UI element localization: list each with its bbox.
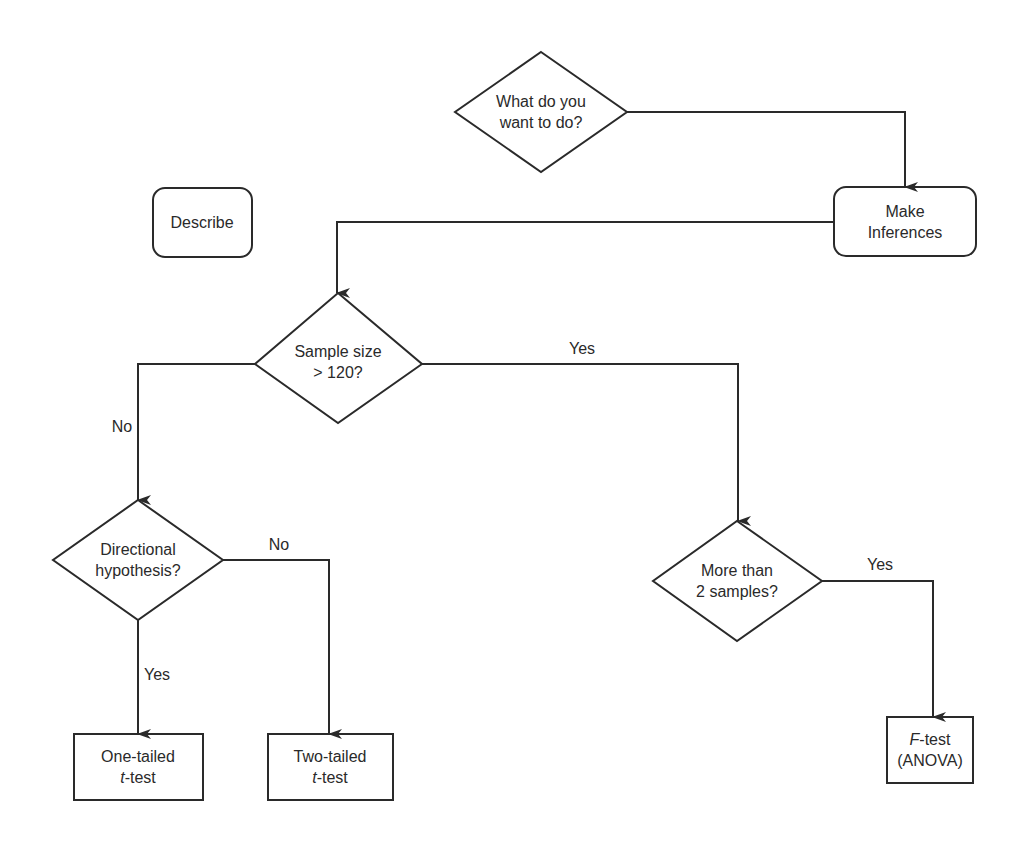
connector-directional-no (223, 560, 329, 734)
f-test-box: F-test (ANOVA) (897, 729, 962, 771)
f-test-italic-f: F (910, 731, 920, 748)
two-tailed-line1: Two-tailed (294, 746, 367, 767)
f-test-line1: F-test (897, 729, 962, 750)
decision-more-samples: More than 2 samples? (696, 560, 778, 602)
edge-label-directional-no: No (269, 536, 289, 554)
connector-sample-no (138, 364, 255, 500)
two-tailed-box: Two-tailed t-test (294, 746, 367, 788)
sample-size-line1: Sample size (294, 341, 381, 362)
edge-label-directional-yes: Yes (144, 666, 170, 684)
edge-label-more-samples-yes: Yes (867, 556, 893, 574)
make-inferences-line1: Make (868, 201, 943, 222)
decision-directional: Directional hypothesis? (95, 539, 180, 581)
two-tailed-line2: t-test (294, 767, 367, 788)
connector-start-to-inferences (627, 112, 905, 187)
make-inferences-line2: Inferences (868, 222, 943, 243)
make-inferences-box: Make Inferences (868, 201, 943, 243)
describe-label: Describe (170, 212, 233, 233)
more-samples-line2: 2 samples? (696, 581, 778, 602)
two-tailed-rest: -test (317, 769, 348, 786)
edge-label-sample-yes: Yes (569, 340, 595, 358)
sample-size-line2: > 120? (294, 362, 381, 383)
decision-start: What do you want to do? (496, 91, 586, 133)
connector-sample-yes (422, 364, 738, 521)
f-test-rest: -test (919, 731, 950, 748)
decision-start-line1: What do you (496, 91, 586, 112)
one-tailed-line2: t-test (101, 767, 175, 788)
more-samples-line1: More than (696, 560, 778, 581)
connector-more-samples-yes (822, 581, 933, 717)
connector-inferences-to-sample-size (337, 222, 834, 293)
one-tailed-box: One-tailed t-test (101, 746, 175, 788)
edge-label-sample-no: No (112, 418, 132, 436)
decision-sample-size: Sample size > 120? (294, 341, 381, 383)
f-test-line2: (ANOVA) (897, 750, 962, 771)
describe-box: Describe (170, 212, 233, 233)
directional-line1: Directional (95, 539, 180, 560)
one-tailed-line1: One-tailed (101, 746, 175, 767)
decision-start-line2: want to do? (496, 112, 586, 133)
directional-line2: hypothesis? (95, 560, 180, 581)
one-tailed-rest: -test (125, 769, 156, 786)
